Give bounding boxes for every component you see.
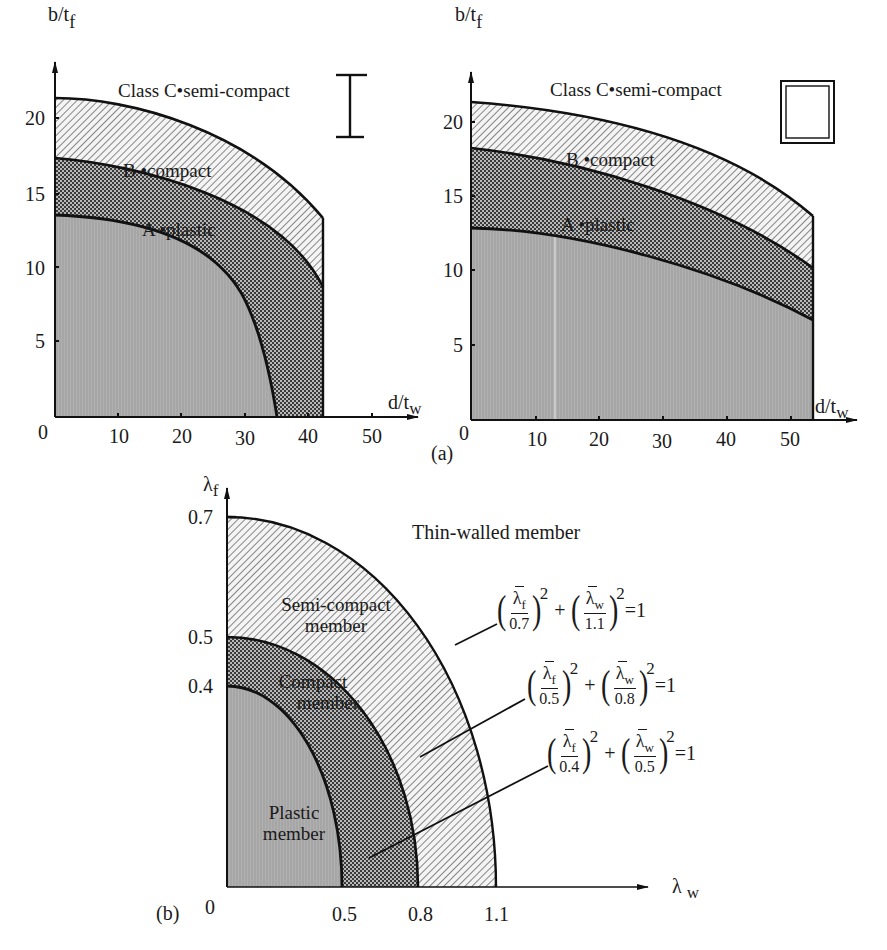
left-ytick-20: 20 — [25, 108, 45, 128]
left-label-class-a: A •plastic — [142, 220, 216, 239]
equation-semi-compact: ( λf0.7 )2 + ( λw1.1 )2 =1 — [495, 588, 646, 633]
right-ytick-20: 20 — [443, 112, 463, 132]
left-xtick-30: 30 — [235, 428, 255, 448]
bottom-ylabel: λf — [203, 474, 218, 499]
region-label-semi-compact: Semi-compactmember — [266, 595, 406, 635]
left-ytick-10: 10 — [25, 258, 45, 278]
bottom-title: Thin-walled member — [412, 522, 580, 542]
left-xtick-10: 10 — [109, 426, 129, 446]
bottom-xlabel: λ w — [672, 876, 699, 901]
right-label-class-a: A •plastic — [561, 215, 635, 234]
chart-left-i-section — [55, 62, 418, 417]
right-xtick-20: 20 — [589, 429, 609, 449]
bottom-xtick-0.5: 0.5 — [332, 904, 357, 924]
left-xtick-50: 50 — [362, 426, 382, 446]
left-origin: 0 — [38, 422, 48, 442]
left-label-class-b: B •compact — [123, 161, 211, 180]
figure-canvas — [0, 0, 887, 950]
right-xtick-30: 30 — [652, 431, 672, 451]
equation-plastic: ( λf0.4 )2 + ( λw0.5 )2 =1 — [545, 731, 696, 776]
region-label-compact: Compactmember — [258, 672, 368, 712]
bottom-xtick-0.8: 0.8 — [408, 904, 433, 924]
left-ytick-15: 15 — [25, 184, 45, 204]
right-ytick-15: 15 — [443, 186, 463, 206]
right-ylabel: b/tf — [455, 4, 482, 29]
leader-semi-compact — [455, 624, 497, 645]
right-xtick-10: 10 — [527, 429, 547, 449]
box-section-icon — [781, 81, 834, 143]
bottom-origin: 0 — [205, 897, 215, 917]
bottom-ytick-0.7: 0.7 — [188, 507, 213, 527]
left-label-class-c: Class C•semi-compact — [118, 81, 290, 100]
panel-a-label: (a) — [431, 443, 453, 463]
right-ytick-10: 10 — [443, 260, 463, 280]
bottom-ytick-0.4: 0.4 — [188, 676, 213, 696]
right-ytick-5: 5 — [453, 335, 463, 355]
right-xlabel: d/tw — [815, 396, 848, 421]
left-ytick-5: 5 — [35, 331, 45, 351]
right-xtick-50: 50 — [780, 429, 800, 449]
right-label-class-b: B •compact — [566, 150, 654, 169]
right-origin: 0 — [459, 423, 469, 443]
i-beam-icon — [336, 75, 367, 137]
left-xtick-40: 40 — [298, 426, 318, 446]
left-xlabel: d/tw — [388, 392, 421, 417]
left-xtick-20: 20 — [172, 426, 192, 446]
panel-b-label: (b) — [156, 903, 179, 923]
chart-right-box-section — [471, 72, 857, 420]
region-label-plastic: Plasticmember — [254, 803, 334, 843]
right-xtick-40: 40 — [716, 429, 736, 449]
bottom-ytick-0.5: 0.5 — [188, 627, 213, 647]
bottom-xtick-1.1: 1.1 — [484, 904, 509, 924]
left-ylabel: b/tf — [48, 4, 75, 29]
right-label-class-c: Class C•semi-compact — [550, 80, 722, 99]
equation-compact: ( λf0.5 )2 + ( λw0.8 )2 =1 — [525, 663, 676, 708]
